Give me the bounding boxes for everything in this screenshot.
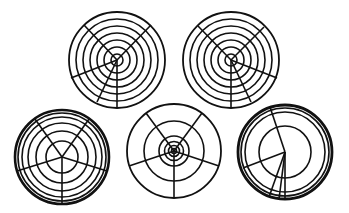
diagram-bottom-left [15, 110, 109, 204]
radial-spoke [62, 119, 89, 157]
diagram-bottom-middle [127, 104, 221, 198]
diagram-top-right [183, 12, 279, 108]
diagram-top-left [69, 12, 165, 108]
diagram-bottom-right [238, 105, 332, 199]
radial-spoke [35, 119, 62, 157]
radial-spoke [231, 27, 264, 60]
radial-spoke [243, 152, 285, 168]
polar-grid-figure [0, 0, 349, 213]
